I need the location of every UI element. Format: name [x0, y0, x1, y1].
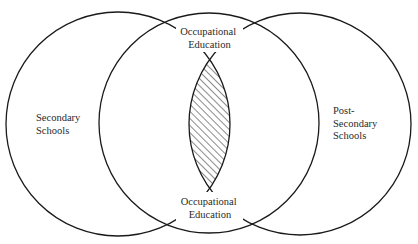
- post-secondary-schools-label: Post- Secondary Schools: [333, 105, 380, 141]
- post-secondary-label-line3: Schools: [333, 130, 366, 141]
- occupational-education-top-label: Occupational Education: [180, 26, 239, 50]
- secondary-schools-label-line2: Schools: [36, 125, 69, 136]
- occupational-top-line1: Occupational: [180, 26, 236, 37]
- occupational-top-line2: Education: [188, 39, 231, 50]
- secondary-schools-label: Secondary Schools: [36, 112, 83, 136]
- post-secondary-label-line1: Post-: [333, 105, 355, 116]
- occupational-bottom-line1: Occupational: [181, 196, 237, 207]
- occupational-bottom-line2: Education: [189, 209, 232, 220]
- secondary-schools-label-line1: Secondary: [36, 112, 81, 123]
- occupational-education-bottom-label: Occupational Education: [181, 196, 240, 220]
- venn-diagram: Secondary Schools Post- Secondary School…: [0, 0, 418, 244]
- post-secondary-label-line2: Secondary: [333, 118, 378, 129]
